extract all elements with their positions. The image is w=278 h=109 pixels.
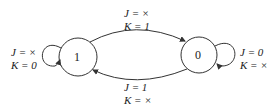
label-loop-1-k: K = 0	[11, 59, 37, 72]
arc-0-to-1	[93, 69, 187, 80]
self-loop-1	[42, 45, 61, 66]
label-0-to-1-k: K = ×	[124, 94, 152, 107]
state-diagram: 1 0 J = × K = 1 J = 1 K = × J = × K = 0 …	[0, 0, 278, 109]
self-loop-0	[215, 43, 235, 66]
label-loop-0-k: K = ×	[240, 59, 268, 72]
label-1-to-0-j: J = ×	[124, 7, 149, 20]
label-loop-1-j: J = ×	[11, 46, 36, 59]
label-loop-0-j: J = 0	[240, 46, 263, 59]
state-1-label: 1	[74, 51, 80, 64]
state-0-label: 0	[195, 49, 201, 62]
label-1-to-0-k: K = 1	[124, 20, 150, 33]
label-0-to-1-j: J = 1	[124, 81, 147, 94]
